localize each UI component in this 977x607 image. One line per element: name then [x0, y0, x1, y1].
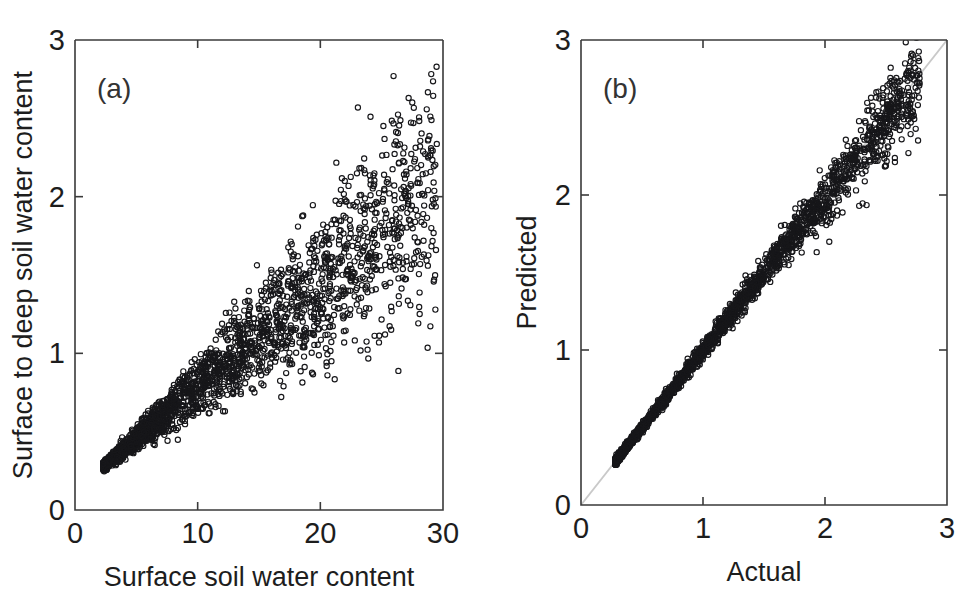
data-point: [908, 132, 913, 137]
data-point: [913, 126, 918, 131]
data-point: [346, 183, 351, 188]
data-point: [328, 348, 333, 353]
data-point: [425, 90, 430, 95]
panel-tag: (b): [603, 73, 637, 104]
data-point: [853, 188, 858, 193]
figure-svg: 01020300123Surface soil water contentSur…: [0, 0, 977, 607]
data-point: [415, 213, 420, 218]
data-point: [354, 302, 359, 307]
y-tick-label: 1: [49, 337, 65, 369]
data-point: [331, 333, 336, 338]
data-point: [416, 321, 421, 326]
scatter-points: [101, 64, 440, 474]
data-point: [424, 215, 429, 220]
data-point: [408, 303, 413, 308]
data-point: [393, 206, 398, 211]
data-point: [165, 438, 170, 443]
data-point: [382, 136, 387, 141]
data-point: [315, 248, 320, 253]
data-point: [400, 205, 405, 210]
x-axis-title: Surface soil water content: [104, 562, 415, 592]
data-point: [324, 363, 329, 368]
data-point: [342, 340, 347, 345]
data-point: [340, 272, 345, 277]
data-point: [870, 103, 875, 108]
data-point: [347, 217, 352, 222]
data-point: [376, 340, 381, 345]
data-point: [856, 119, 861, 124]
data-point: [889, 138, 894, 143]
data-point: [428, 169, 433, 174]
data-point: [223, 310, 228, 315]
x-tick-label: 1: [695, 512, 711, 544]
data-point: [242, 308, 247, 313]
data-point: [417, 118, 422, 123]
data-point: [434, 64, 439, 69]
data-point: [425, 188, 430, 193]
data-point: [385, 244, 390, 249]
x-tick-label: 10: [182, 517, 214, 549]
data-point: [411, 105, 416, 110]
data-point: [298, 369, 303, 374]
data-point: [390, 167, 395, 172]
data-point: [382, 262, 387, 267]
data-point: [358, 348, 363, 353]
data-point: [300, 380, 305, 385]
data-point: [418, 138, 423, 143]
data-point: [354, 171, 359, 176]
y-tick-label: 0: [555, 489, 571, 521]
data-point: [254, 263, 259, 268]
y-tick-label: 3: [49, 24, 65, 56]
data-point: [845, 143, 850, 148]
panel-tag: (a): [97, 73, 131, 104]
data-point: [295, 224, 300, 229]
data-point: [799, 250, 804, 255]
data-point: [233, 306, 238, 311]
data-point: [424, 107, 429, 112]
data-point: [198, 352, 203, 357]
data-point: [358, 264, 363, 269]
data-point: [862, 179, 867, 184]
data-point: [315, 342, 320, 347]
data-point: [433, 247, 438, 252]
data-point: [301, 354, 306, 359]
data-point: [318, 337, 323, 342]
data-point: [237, 383, 242, 388]
data-point: [392, 183, 397, 188]
data-point: [430, 79, 435, 84]
data-point: [907, 13, 912, 18]
data-point: [329, 339, 334, 344]
data-point: [359, 260, 364, 265]
x-tick-label: 0: [573, 512, 589, 544]
data-point: [381, 123, 386, 128]
data-point: [325, 373, 330, 378]
data-point: [840, 210, 845, 215]
data-point: [392, 151, 397, 156]
data-point: [433, 307, 438, 312]
data-point: [419, 131, 424, 136]
data-point: [309, 350, 314, 355]
y-tick-label: 0: [49, 494, 65, 526]
data-point: [331, 312, 336, 317]
data-point: [350, 243, 355, 248]
data-point: [246, 288, 251, 293]
x-tick-label: 20: [304, 517, 336, 549]
data-point: [362, 220, 367, 225]
data-point: [368, 114, 373, 119]
data-point: [327, 242, 332, 247]
data-point: [888, 65, 893, 70]
data-point: [362, 156, 367, 161]
data-point: [429, 225, 434, 230]
data-point: [394, 129, 399, 134]
data-point: [314, 232, 319, 237]
data-point: [843, 137, 848, 142]
data-point: [225, 392, 230, 397]
panel-b: 01230123ActualPredicted(b): [512, 13, 955, 587]
data-point: [294, 350, 299, 355]
data-point: [372, 217, 377, 222]
data-point: [431, 230, 436, 235]
data-point: [817, 168, 822, 173]
data-point: [396, 294, 401, 299]
data-point: [858, 128, 863, 133]
data-point: [422, 203, 427, 208]
